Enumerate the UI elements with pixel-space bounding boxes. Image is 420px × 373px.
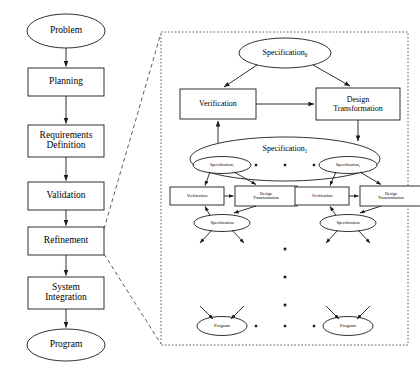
diagram-canvas: ProblemPlanningRequirementsDefinitionVal… — [0, 0, 420, 373]
spec0-ellipse-label: Specification0 — [263, 48, 308, 58]
group-ellipsis-dot-3 — [313, 164, 315, 166]
node-problem-label: Problem — [50, 25, 83, 35]
program-ellipsis-dot-1 — [255, 325, 257, 327]
node-program-label: Program — [50, 339, 83, 349]
verification-1-2-label: Verification — [312, 193, 334, 198]
group-ellipsis-dot-1 — [255, 164, 257, 166]
detail-panel-group: Specification0VerificationDesignTransfor… — [161, 32, 420, 345]
group-ellipsis-dot-2 — [284, 164, 286, 166]
callout-line-2 — [104, 254, 161, 344]
node-refinement-label: Refinement — [44, 235, 89, 245]
program-node-2-label: Program — [340, 323, 356, 328]
verification-1-1-label: Verification — [187, 193, 209, 198]
node-validation-label: Validation — [46, 190, 85, 200]
callout-group — [104, 33, 161, 344]
diagram-svg: ProblemPlanningRequirementsDefinitionVal… — [0, 0, 420, 373]
vertical-ellipsis-dot-1 — [284, 248, 287, 251]
left-flow-group: ProblemPlanningRequirementsDefinitionVal… — [27, 14, 105, 361]
node-requirements-label: RequirementsDefinition — [40, 130, 93, 151]
program-node-1-label: Program — [214, 323, 230, 328]
node-planning-label: Planning — [49, 76, 83, 86]
vertical-ellipsis-dot-3 — [284, 304, 287, 307]
verification-0-label: Verification — [199, 99, 237, 108]
spec2-1-label: Specification — [210, 220, 234, 225]
callout-line-1 — [104, 33, 161, 229]
program-ellipsis-dot-2 — [284, 325, 286, 327]
vertical-ellipsis-dot-2 — [284, 276, 287, 279]
spec2-2-label: Specification — [336, 220, 360, 225]
spec1-group-label: Specification1 — [263, 144, 308, 154]
program-ellipsis-dot-3 — [313, 325, 315, 327]
